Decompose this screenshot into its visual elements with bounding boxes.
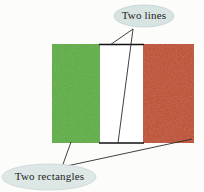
leader-to-top-line (110, 29, 133, 45)
white-band (100, 44, 143, 143)
green-band (52, 44, 100, 143)
callout-label-two-lines: Two lines (114, 9, 174, 22)
orange-band (143, 44, 194, 143)
leader-to-green-rectangle (62, 142, 71, 167)
tricolour-flag (52, 44, 194, 143)
callout-label-two-rectangles: Two rectangles (3, 170, 96, 183)
flag-annotation-figure (0, 0, 204, 192)
diagram-canvas: Two lines Two rectangles (0, 0, 204, 192)
